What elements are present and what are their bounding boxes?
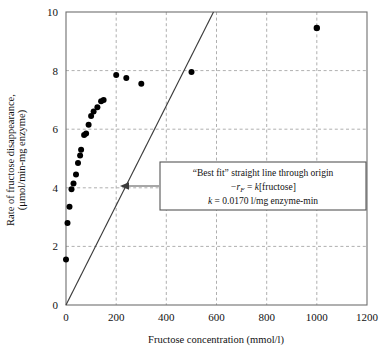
annotation-rate-symbol: −r <box>230 182 240 192</box>
chart-figure: 0 2 4 6 8 10 0 200 400 600 800 1000 1200… <box>0 0 382 355</box>
y-tick-label: 10 <box>47 6 59 18</box>
x-tick-label: 0 <box>63 311 69 323</box>
scatter-plot-svg: 0 2 4 6 8 10 0 200 400 600 800 1000 1200… <box>0 0 382 355</box>
x-axis-title: Fructose concentration (mmol/l) <box>148 334 284 346</box>
data-point <box>69 186 75 192</box>
x-tick-label: 600 <box>208 311 225 323</box>
data-point <box>86 122 92 128</box>
x-tick-label: 1200 <box>356 311 379 323</box>
annotation-k-value: = 0.0170 l/mg enzyme-min <box>212 196 318 206</box>
data-point <box>78 147 84 153</box>
y-tick-label: 0 <box>53 299 59 311</box>
data-point <box>63 257 69 263</box>
data-point <box>138 81 144 87</box>
y-tick-label: 8 <box>53 65 59 77</box>
annotation-line-3: k = 0.0170 l/mg enzyme-min <box>208 196 318 206</box>
data-point <box>71 180 77 186</box>
data-point <box>75 160 81 166</box>
x-tick-label: 1000 <box>306 311 329 323</box>
data-point <box>314 25 320 31</box>
data-point <box>65 220 71 226</box>
annotation-equals: = <box>245 182 255 192</box>
x-axis-ticks: 0 200 400 600 800 1000 1200 <box>63 311 378 323</box>
annotation-fructose-term: [fructose] <box>259 182 296 192</box>
data-point <box>123 75 129 81</box>
y-tick-label: 4 <box>53 182 59 194</box>
y-tick-label: 6 <box>53 123 59 135</box>
x-tick-label: 200 <box>108 311 125 323</box>
data-point <box>189 69 195 75</box>
data-point <box>83 131 89 137</box>
annotation-line-1: “Best fit” straight line through origin <box>193 168 334 178</box>
data-point <box>101 97 107 103</box>
x-tick-label: 400 <box>158 311 175 323</box>
data-point <box>73 172 79 178</box>
data-point <box>94 104 100 110</box>
x-tick-label: 800 <box>258 311 275 323</box>
y-axis-title-line2: (μmol/min-mg enzyme) <box>16 109 28 210</box>
y-tick-label: 2 <box>53 240 59 252</box>
data-point <box>67 204 73 210</box>
data-point <box>113 72 119 78</box>
annotation-callout: “Best fit” straight line through origin … <box>160 162 366 210</box>
data-point <box>77 153 83 159</box>
y-axis-title-line1: Rate of fructose disappearance, <box>5 94 16 226</box>
y-axis-ticks: 0 2 4 6 8 10 <box>47 6 59 311</box>
